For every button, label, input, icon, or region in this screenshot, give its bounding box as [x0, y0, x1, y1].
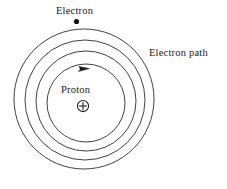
electron-label: Electron	[56, 6, 93, 17]
bohr-model-figure: Electron Electron path Proton	[0, 0, 227, 189]
electron-particle-icon	[74, 19, 79, 24]
proton-label: Proton	[61, 85, 90, 96]
electron-path-label: Electron path	[149, 48, 208, 59]
proton-nucleus	[77, 100, 88, 111]
diagram-canvas	[0, 0, 227, 189]
figure-background	[0, 0, 227, 189]
